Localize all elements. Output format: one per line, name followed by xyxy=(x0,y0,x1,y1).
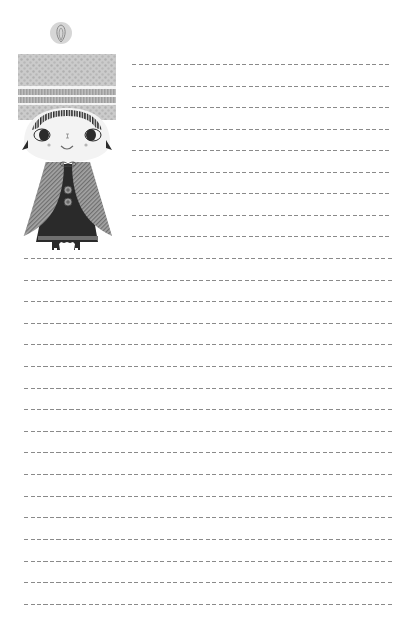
writing-line xyxy=(24,409,392,410)
writing-line xyxy=(24,388,392,389)
legs xyxy=(52,242,80,250)
short-writing-line xyxy=(132,86,392,87)
writing-line xyxy=(24,496,392,497)
writing-line xyxy=(24,366,392,367)
writing-line xyxy=(24,344,392,345)
short-writing-line xyxy=(132,172,392,173)
short-writing-line xyxy=(132,107,392,108)
writing-line xyxy=(24,323,392,324)
short-writing-line xyxy=(132,64,392,65)
pompom xyxy=(50,22,72,44)
writing-line xyxy=(24,604,392,605)
writing-line xyxy=(24,301,392,302)
writing-line xyxy=(24,561,392,562)
writing-line xyxy=(24,517,392,518)
writing-line xyxy=(24,582,392,583)
girl-illustration xyxy=(14,22,126,250)
writing-line xyxy=(24,474,392,475)
short-writing-line xyxy=(132,129,392,130)
writing-line xyxy=(24,539,392,540)
short-writing-line xyxy=(132,150,392,151)
stationery-page xyxy=(0,0,416,630)
writing-line xyxy=(24,431,392,432)
writing-line xyxy=(24,280,392,281)
short-writing-line xyxy=(132,215,392,216)
short-writing-line xyxy=(132,193,392,194)
writing-line xyxy=(24,258,392,259)
writing-line xyxy=(24,452,392,453)
short-writing-line xyxy=(132,236,392,237)
